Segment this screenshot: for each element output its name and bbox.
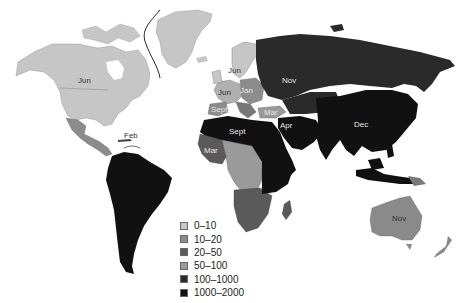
legend-swatch bbox=[180, 222, 188, 230]
region-new-zealand bbox=[434, 236, 452, 258]
legend-item-1000-2000: 1000–2000 bbox=[180, 286, 244, 299]
label-east-asia: Dec bbox=[354, 120, 368, 129]
region-iceland bbox=[196, 56, 208, 63]
label-west-europe: Jun bbox=[218, 88, 231, 97]
region-caribbean-arc bbox=[124, 146, 140, 148]
region-north-america bbox=[16, 44, 150, 126]
label-middle-east: Apr bbox=[280, 121, 292, 130]
legend-swatch bbox=[180, 275, 188, 283]
legend-label: 100–1000 bbox=[194, 274, 239, 285]
label-australia: Nov bbox=[392, 214, 406, 223]
label-west-africa: Mar bbox=[204, 146, 218, 155]
region-arctic-russia bbox=[330, 24, 344, 32]
legend-swatch bbox=[180, 289, 188, 297]
label-north-africa: Sept bbox=[229, 127, 245, 136]
legend-label: 0–10 bbox=[194, 220, 216, 231]
label-iberia: Sept bbox=[211, 105, 227, 114]
label-russia: Nov bbox=[282, 76, 296, 85]
label-caribbean: Feb bbox=[124, 131, 138, 140]
legend-item-20-50: 20–50 bbox=[180, 246, 244, 259]
legend-item-50-100: 50–100 bbox=[180, 259, 244, 272]
legend-label: 10–20 bbox=[194, 234, 222, 245]
label-turkey: Mar bbox=[264, 108, 278, 117]
legend-swatch bbox=[180, 248, 188, 256]
legend-item-10-20: 10–20 bbox=[180, 232, 244, 245]
region-se-asia-islands bbox=[356, 168, 420, 184]
label-scandinavia: Jun bbox=[228, 66, 241, 75]
region-philippines bbox=[386, 144, 394, 158]
legend-item-100-1000: 100–1000 bbox=[180, 273, 244, 286]
region-uk bbox=[212, 70, 222, 84]
legend-label: 1000–2000 bbox=[194, 287, 244, 298]
legend: 0–10 10–20 20–50 50–100 100–1000 1000–20… bbox=[180, 219, 244, 299]
region-borneo bbox=[368, 158, 384, 170]
legend-swatch bbox=[180, 262, 188, 270]
region-tasmania bbox=[406, 244, 412, 250]
region-madagascar bbox=[282, 200, 292, 220]
region-south-america bbox=[106, 152, 172, 274]
region-balkans bbox=[236, 102, 256, 118]
label-east-europe: Jan bbox=[240, 86, 253, 95]
legend-label: 50–100 bbox=[194, 260, 227, 271]
legend-label: 20–50 bbox=[194, 247, 222, 258]
legend-swatch bbox=[180, 235, 188, 243]
legend-item-0-10: 0–10 bbox=[180, 219, 244, 232]
region-russia bbox=[256, 34, 455, 100]
region-arctic-islands bbox=[82, 24, 140, 44]
label-north-america: Jun bbox=[78, 76, 91, 85]
